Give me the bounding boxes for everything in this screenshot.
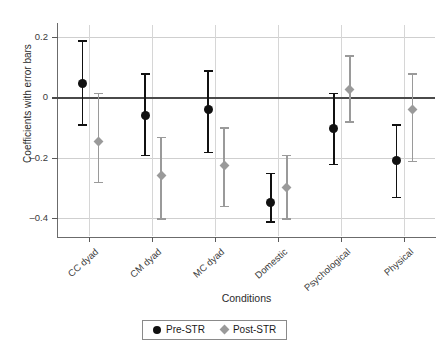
error-bar-cap bbox=[141, 155, 150, 157]
gridline-vertical bbox=[215, 25, 216, 236]
error-bar-cap bbox=[392, 124, 401, 126]
error-bar-cap bbox=[78, 124, 87, 126]
diamond-marker-icon bbox=[219, 325, 229, 335]
x-axis-title: Conditions bbox=[58, 292, 435, 304]
error-bar-cap bbox=[282, 155, 291, 157]
gridline-vertical bbox=[152, 25, 153, 236]
error-bar-cap bbox=[408, 73, 417, 75]
gridline-vertical bbox=[89, 25, 90, 236]
error-bar bbox=[412, 73, 414, 160]
circle-marker-icon bbox=[153, 326, 161, 334]
data-point-circle bbox=[392, 156, 401, 165]
x-axis-line bbox=[57, 237, 436, 238]
error-bar-cap bbox=[345, 121, 354, 123]
error-bar-cap bbox=[78, 40, 87, 42]
legend-item-post-str: Post-STR bbox=[221, 324, 276, 335]
error-bar-cap bbox=[141, 73, 150, 75]
x-tick-mark bbox=[152, 237, 153, 242]
data-point-circle bbox=[204, 105, 213, 114]
error-bar-cap bbox=[220, 206, 229, 208]
error-bar-cap bbox=[94, 93, 103, 95]
data-point-diamond bbox=[156, 171, 166, 181]
chart-figure: Coefficients with error bars 0.20–0.2–0.… bbox=[0, 0, 440, 352]
error-bar bbox=[270, 173, 272, 221]
y-tick-label: –0.2 bbox=[0, 153, 48, 163]
error-bar-cap bbox=[204, 152, 213, 154]
error-bar-cap bbox=[266, 221, 275, 223]
x-tick-mark bbox=[404, 237, 405, 242]
gridline-horizontal bbox=[58, 158, 435, 159]
y-tick-label: –0.4 bbox=[0, 213, 48, 223]
data-point-circle bbox=[329, 124, 338, 133]
data-point-circle bbox=[78, 79, 87, 88]
error-bar-cap bbox=[392, 197, 401, 199]
data-point-diamond bbox=[219, 160, 229, 170]
error-bar-cap bbox=[408, 161, 417, 163]
error-bar-cap bbox=[266, 173, 275, 175]
error-bar-cap bbox=[157, 137, 166, 139]
x-tick-mark bbox=[341, 237, 342, 242]
data-point-circle bbox=[141, 111, 150, 120]
data-point-circle bbox=[266, 198, 275, 207]
error-bar-cap bbox=[345, 55, 354, 57]
gridline-vertical bbox=[278, 25, 279, 236]
x-tick-mark bbox=[215, 237, 216, 242]
data-point-diamond bbox=[93, 136, 103, 146]
error-bar-cap bbox=[282, 218, 291, 220]
data-point-diamond bbox=[408, 104, 418, 114]
gridline-vertical bbox=[404, 25, 405, 236]
error-bar-cap bbox=[329, 164, 338, 166]
y-tick-label: 0.2 bbox=[0, 32, 48, 42]
error-bar-cap bbox=[204, 70, 213, 72]
error-bar-cap bbox=[220, 127, 229, 129]
x-tick-mark bbox=[89, 237, 90, 242]
error-bar-cap bbox=[94, 182, 103, 184]
y-tick-label: 0 bbox=[0, 92, 48, 102]
gridline-horizontal bbox=[58, 37, 435, 38]
legend-label-post-str: Post-STR bbox=[233, 324, 276, 335]
legend-item-pre-str: Pre-STR bbox=[153, 324, 205, 335]
gridline-horizontal bbox=[58, 218, 435, 219]
error-bar-cap bbox=[329, 93, 338, 95]
chart-legend: Pre-STR Post-STR bbox=[142, 320, 287, 340]
x-tick-mark bbox=[278, 237, 279, 242]
plot-area bbox=[58, 25, 435, 236]
zero-reference-line bbox=[52, 97, 435, 99]
data-point-diamond bbox=[345, 85, 355, 95]
legend-label-pre-str: Pre-STR bbox=[166, 324, 205, 335]
gridline-vertical bbox=[341, 25, 342, 236]
error-bar-cap bbox=[157, 218, 166, 220]
data-point-diamond bbox=[282, 183, 292, 193]
